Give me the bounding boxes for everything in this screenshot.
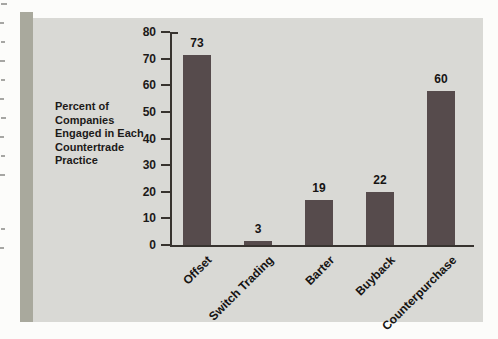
page-edge-text-fragment [1, 41, 5, 43]
y-axis-tick-label: 20 [122, 185, 156, 199]
page-edge-text-fragment [0, 136, 4, 138]
page-edge-text-fragment [1, 117, 6, 119]
page-edge-text-fragment [1, 3, 7, 5]
bar-chart-plot-area: 0102030405060708073Offset3Switch Trading… [170, 32, 474, 247]
page-edge-text-fragment [0, 247, 4, 249]
y-axis-tick [161, 164, 170, 166]
category-label: Barter [302, 253, 337, 288]
page-edge-text-fragment [0, 22, 4, 24]
page-edge-text-fragment [1, 79, 5, 81]
bar-counterpurchase [427, 91, 455, 245]
page-edge-text-fragment [1, 155, 5, 157]
page-margin-strip [20, 12, 33, 322]
bar-barter [305, 200, 333, 245]
y-axis-tick [161, 111, 170, 113]
bar-value-label: 22 [360, 174, 400, 187]
y-axis-top-tick [170, 32, 178, 34]
y-axis-tick [161, 191, 170, 193]
page-edge-text-fragment [0, 98, 4, 100]
y-axis-tick [161, 244, 170, 246]
bar-offset [183, 55, 211, 245]
bar-buyback [366, 192, 394, 245]
page-edge-text-fragment [0, 174, 5, 176]
y-axis-tick [161, 84, 170, 86]
bar-value-label: 19 [299, 182, 339, 195]
y-axis-tick [161, 31, 170, 33]
y-axis-tick-label: 10 [122, 211, 156, 225]
y-axis-tick-label: 0 [122, 238, 156, 252]
y-axis-tick-label: 60 [122, 78, 156, 92]
y-axis-tick-label: 40 [122, 132, 156, 146]
chart-panel: Percent of Companies Engaged in Each Cou… [33, 18, 483, 322]
y-axis-tick [161, 217, 170, 219]
bar-value-label: 73 [177, 37, 217, 50]
y-axis-tick [161, 138, 170, 140]
y-axis-tick-label: 70 [122, 52, 156, 66]
page-edge-text-fragment [1, 228, 5, 230]
page-edge-text-fragment [0, 60, 5, 62]
y-axis-tick-label: 80 [122, 25, 156, 39]
category-label: Buyback [353, 253, 398, 298]
y-axis-tick [161, 58, 170, 60]
category-label: Offset [180, 253, 214, 287]
y-axis-tick-label: 50 [122, 105, 156, 119]
bar-value-label: 3 [238, 223, 278, 236]
y-axis-tick-label: 30 [122, 158, 156, 172]
bar-value-label: 60 [421, 73, 461, 86]
book-page-figure: Percent of Companies Engaged in Each Cou… [0, 0, 498, 339]
bar-switch-trading [244, 241, 272, 245]
category-label: Switch Trading [206, 253, 276, 323]
